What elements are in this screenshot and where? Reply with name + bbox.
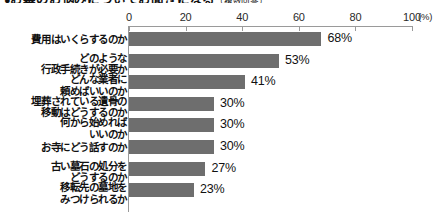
category-label-line: みつけられるか [2,194,127,205]
x-tick-label: 0 [126,11,132,23]
x-tick-label: 40 [236,11,248,23]
x-tick-label: 60 [293,11,305,23]
category-label: 何から始めればいいのか [2,117,127,139]
category-label-line: いいのか [2,129,127,140]
bar-value-label: 30% [220,96,244,111]
bar [129,75,245,89]
chart-row: どのような行政手続きが必要か53% [0,53,447,74]
category-label: どんな業者に頼めばいいのか [2,74,127,96]
bar-chart: 020406080100(%) 費用はいくらするのか68%どのような行政手続きが… [0,0,447,218]
x-axis-unit-label: (%) [418,11,432,22]
category-label: どのような行政手続きが必要か [2,53,127,75]
category-label-line: お寺にどう話すのか [2,142,127,153]
bar-value-label: 53% [285,53,309,68]
category-label: 費用はいくらするのか [2,31,127,45]
bar-value-label: 23% [200,182,224,197]
chart-row: どんな業者に頼めばいいのか41% [0,74,447,95]
chart-row: 移転先の墓地をみつけられるか23% [0,182,447,203]
chart-row: 埋葬されている遺骨の移動はどうするのか30% [0,96,447,117]
chart-row: 何から始めればいいのか30% [0,117,447,138]
chart-row: お寺にどう話すのか30% [0,139,447,160]
bar [129,140,214,154]
category-label-line: どんな業者に [2,74,127,85]
category-label: お寺にどう話すのか [2,139,127,153]
category-label: 埋葬されている遺骨の移動はどうするのか [2,96,127,118]
bar-value-label: 41% [251,74,275,89]
bar [129,32,321,46]
x-axis-line [129,26,413,27]
category-label-line: 何から始めれば [2,117,127,128]
bar-value-label: 27% [211,161,235,176]
category-label-line: どのような [2,53,127,64]
bar [129,54,279,68]
category-label-line: 埋葬されている遺骨の [2,96,127,107]
x-tick-label: 80 [349,11,361,23]
x-tick-label: 20 [180,11,192,23]
bar-value-label: 30% [220,117,244,132]
category-label: 古い墓石の処分をどうするのか [2,161,127,183]
chart-row: 費用はいくらするのか68% [0,31,447,52]
category-label: 移転先の墓地をみつけられるか [2,182,127,204]
bar-value-label: 30% [220,139,244,154]
chart-row: 古い墓石の処分をどうするのか27% [0,161,447,182]
category-label-line: 移転先の墓地を [2,182,127,193]
bar [129,118,214,132]
category-label-line: 費用はいくらするのか [2,34,127,45]
bar [129,162,205,176]
bar [129,183,194,197]
category-label-line: 古い墓石の処分を [2,161,127,172]
bar [129,97,214,111]
bar-value-label: 68% [327,31,351,46]
